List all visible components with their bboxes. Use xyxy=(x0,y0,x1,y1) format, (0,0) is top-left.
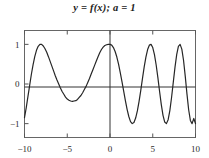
chart-figure: y = f(x); a = 1 −10−50510 −101 xyxy=(0,0,209,158)
x-tick-label: −5 xyxy=(62,144,72,154)
y-tick-label: 0 xyxy=(15,79,20,89)
x-tick-labels: −10−50510 xyxy=(17,144,200,154)
y-tick-label: −1 xyxy=(10,119,20,129)
y-tick-labels: −101 xyxy=(10,40,20,129)
x-tick-label: −10 xyxy=(17,144,32,154)
y-tick-label: 1 xyxy=(15,40,20,50)
plot-area: −10−50510 −101 xyxy=(0,0,209,158)
x-tick-label: 5 xyxy=(151,144,156,154)
x-tick-label: 10 xyxy=(191,144,201,154)
x-tick-label: 0 xyxy=(108,144,113,154)
